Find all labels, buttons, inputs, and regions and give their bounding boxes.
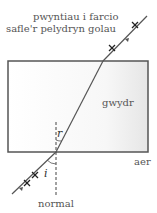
marking-points-label: pwyntiau i farcio bbox=[33, 11, 119, 22]
refraction-diagram: pwyntiau i farcio safle'r pelydryn golau… bbox=[0, 0, 157, 213]
normal-label: normal bbox=[38, 198, 74, 209]
incident-ray bbox=[12, 152, 56, 194]
angle-r-label: r bbox=[57, 128, 62, 139]
glass-label: gwydr bbox=[102, 97, 134, 108]
angle-i-label: i bbox=[44, 168, 48, 179]
arrow-icon bbox=[19, 187, 23, 191]
marking-points-label-2: safle'r pelydryn golau bbox=[6, 23, 116, 34]
air-label: aer bbox=[134, 156, 151, 167]
angle-arc-i bbox=[47, 160, 56, 164]
